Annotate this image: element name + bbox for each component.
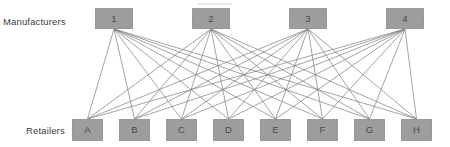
edge-1-B — [114, 29, 135, 119]
edge-2-F — [211, 29, 323, 119]
retailer-node-b[interactable]: B — [119, 119, 150, 141]
edge-3-B — [135, 29, 309, 119]
edge-4-C — [182, 29, 406, 119]
edge-2-B — [135, 29, 212, 119]
edge-3-G — [308, 29, 370, 119]
edge-3-H — [308, 29, 417, 119]
retailer-node-d[interactable]: D — [213, 119, 244, 141]
edge-3-D — [229, 29, 309, 119]
edge-2-D — [211, 29, 229, 119]
edge-1-F — [114, 29, 323, 119]
edge-2-H — [211, 29, 417, 119]
retailer-node-label: C — [178, 125, 185, 135]
retailer-node-a[interactable]: A — [72, 119, 103, 141]
retailer-node-label: H — [413, 125, 420, 135]
retailer-node-label: G — [366, 125, 373, 135]
manufacturer-node-label: 2 — [208, 14, 213, 24]
manufacturer-node-3[interactable]: 3 — [289, 8, 327, 29]
manufacturer-node-label: 3 — [305, 14, 310, 24]
edge-2-A — [88, 29, 212, 119]
retailer-node-label: A — [84, 125, 90, 135]
retailer-node-label: E — [272, 125, 278, 135]
manufacturer-node-label: 1 — [111, 14, 116, 24]
retailer-node-e[interactable]: E — [260, 119, 291, 141]
edge-1-D — [114, 29, 229, 119]
edge-4-D — [229, 29, 406, 119]
edge-1-G — [114, 29, 370, 119]
bipartite-graph-diagram: Manufacturers Retailers 1234 ABCDEFGH — [0, 0, 450, 147]
edge-4-G — [370, 29, 406, 119]
edge-4-B — [135, 29, 406, 119]
edge-4-H — [405, 29, 417, 119]
manufacturer-node-2[interactable]: 2 — [192, 8, 230, 29]
retailers-row-label: Retailers — [26, 126, 65, 136]
edge-1-E — [114, 29, 276, 119]
edge-3-C — [182, 29, 309, 119]
retailer-node-c[interactable]: C — [166, 119, 197, 141]
retailer-node-label: F — [320, 125, 326, 135]
edge-3-A — [88, 29, 309, 119]
retailer-node-h[interactable]: H — [401, 119, 432, 141]
edge-2-C — [182, 29, 212, 119]
edge-1-C — [114, 29, 182, 119]
manufacturers-row-label: Manufacturers — [3, 17, 66, 27]
edge-1-H — [114, 29, 417, 119]
edge-4-F — [323, 29, 406, 119]
top-crop-artifact — [198, 3, 232, 5]
retailer-node-g[interactable]: G — [354, 119, 385, 141]
edge-2-G — [211, 29, 370, 119]
edge-3-E — [276, 29, 309, 119]
edge-4-E — [276, 29, 406, 119]
manufacturer-node-1[interactable]: 1 — [95, 8, 133, 29]
edge-1-A — [88, 29, 115, 119]
edge-2-E — [211, 29, 276, 119]
retailer-node-f[interactable]: F — [307, 119, 338, 141]
manufacturer-node-label: 4 — [402, 14, 407, 24]
edge-4-A — [88, 29, 406, 119]
edge-3-F — [308, 29, 323, 119]
retailer-node-label: D — [225, 125, 232, 135]
manufacturer-node-4[interactable]: 4 — [386, 8, 424, 29]
retailer-node-label: B — [131, 125, 137, 135]
